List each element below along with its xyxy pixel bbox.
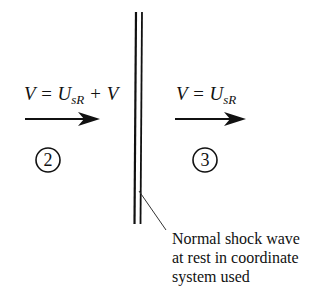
station-2-marker: 2 — [36, 148, 60, 172]
svg-text:3: 3 — [201, 150, 210, 170]
shock-leader-line — [139, 191, 166, 230]
annotation-line-3: system used — [172, 267, 300, 286]
shock-wave-annotation: Normal shock wave at rest in coordinate … — [172, 229, 300, 286]
upstream-flow-arrow — [25, 112, 100, 126]
annotation-line-1: Normal shock wave — [172, 229, 300, 248]
normal-shock-wave — [135, 12, 143, 224]
upstream-velocity-equation: V = UsR + V — [24, 83, 121, 107]
downstream-flow-arrow — [175, 112, 246, 126]
annotation-line-2: at rest in coordinate — [172, 248, 300, 267]
svg-text:2: 2 — [44, 150, 53, 170]
station-3-marker: 3 — [193, 148, 217, 172]
downstream-velocity-equation: V = UsR — [176, 83, 236, 107]
